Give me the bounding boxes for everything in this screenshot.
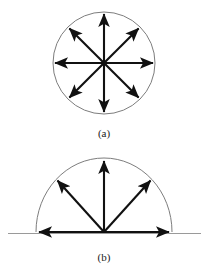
panel-a-center-hub (101, 60, 106, 65)
panel-a-group: (a) (53, 12, 155, 140)
panel-b-arrow-set (39, 161, 169, 232)
figure-canvas: (a) (b) (0, 0, 209, 265)
panel-a-caption: (a) (98, 127, 111, 140)
arrow-down-right (104, 63, 139, 98)
arrow-down-left (69, 63, 104, 98)
arrow-up-right (104, 181, 151, 233)
panel-b-group: (b) (8, 158, 201, 264)
figure-root: (a) (b) (0, 0, 209, 265)
arrow-up-left (58, 181, 105, 233)
arrow-up-right (104, 28, 139, 63)
panel-b-caption: (b) (98, 251, 111, 264)
arrow-up-left (69, 28, 104, 63)
